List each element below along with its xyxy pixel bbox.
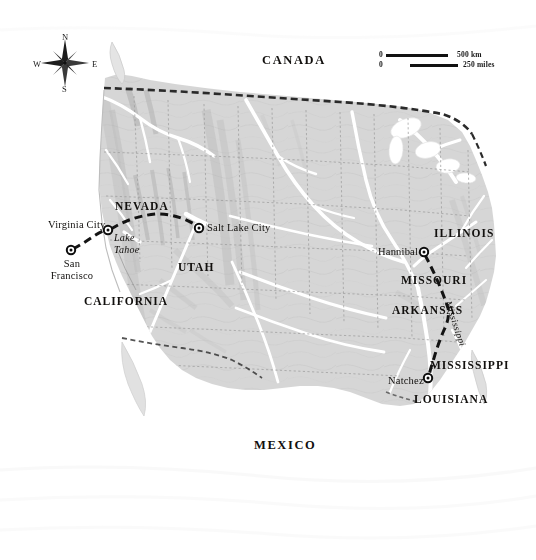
city-marker-virginia-city[interactable] [104, 226, 112, 234]
compass-label-south: S [62, 84, 67, 94]
city-marker-hannibal[interactable] [420, 248, 428, 256]
map-container: CANADA MEXICO NEVADA UTAH CALIFORNIA ILL… [0, 0, 536, 560]
scale-label-km: 500 km [457, 50, 482, 59]
city-marker-salt-lake-city[interactable] [195, 224, 203, 232]
scale-label-miles: 250 miles [463, 60, 495, 69]
map-graphic [0, 0, 536, 560]
scale-zero-miles: 0 [379, 60, 383, 69]
compass-label-north: N [62, 32, 69, 42]
compass-label-east: E [92, 59, 98, 69]
city-marker-san-francisco[interactable] [67, 246, 75, 254]
scale-zero-km: 0 [379, 50, 383, 59]
compass-label-west: W [33, 59, 42, 69]
city-marker-natchez[interactable] [424, 374, 432, 382]
